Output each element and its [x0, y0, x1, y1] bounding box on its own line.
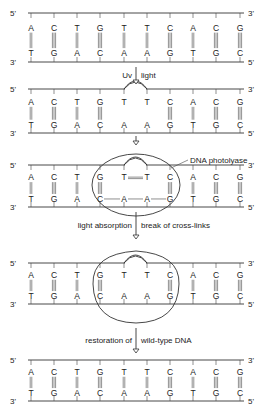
base-top: A	[28, 97, 34, 107]
base-bottom: C	[97, 48, 103, 58]
end-label: 3'	[10, 129, 16, 138]
base-bottom: A	[121, 48, 127, 58]
base-bottom: T	[190, 194, 195, 204]
base-top: T	[144, 270, 149, 280]
base-bottom: A	[121, 194, 127, 204]
base-bottom: A	[74, 194, 80, 204]
end-label: 3'	[10, 203, 16, 212]
base-top: G	[97, 23, 104, 33]
end-label: 5'	[248, 129, 254, 138]
step-label-right: light	[141, 71, 156, 80]
base-top: T	[121, 23, 126, 33]
base-top: T	[144, 23, 149, 33]
base-top: T	[144, 172, 149, 182]
base-bottom: G	[167, 120, 174, 130]
end-label: 5'	[248, 203, 254, 212]
base-top: A	[190, 270, 196, 280]
base-top: T	[74, 97, 79, 107]
base-bottom: A	[144, 291, 150, 301]
base-bottom: A	[74, 388, 80, 398]
base-bottom: T	[190, 120, 195, 130]
base-top: C	[51, 97, 57, 107]
base-top: T	[144, 97, 149, 107]
base-bottom: C	[237, 388, 243, 398]
step-label-right: wild-type DNA	[140, 336, 192, 345]
base-top: G	[97, 270, 104, 280]
base-top: T	[121, 97, 126, 107]
base-top: T	[121, 172, 126, 182]
base-bottom: A	[144, 48, 150, 58]
base-bottom: T	[28, 388, 33, 398]
base-top: T	[121, 367, 126, 377]
step-label-right: break of cross-links	[141, 221, 210, 230]
base-bottom: T	[190, 291, 195, 301]
base-bottom: C	[237, 120, 243, 130]
base-top: G	[237, 367, 244, 377]
base-top: A	[190, 172, 196, 182]
end-label: 3'	[248, 161, 254, 170]
base-bottom: C	[237, 194, 243, 204]
base-top: C	[51, 23, 57, 33]
base-top: T	[74, 23, 79, 33]
enzyme-label: DNA photolyase	[190, 156, 248, 165]
base-bottom: A	[144, 388, 150, 398]
dna-repair-diagram: 5'3'3'5'ATCGTAGCTATACGATCGGC5'3'3'5'ATCG…	[0, 0, 269, 417]
end-label: 5'	[248, 300, 254, 309]
base-top: G	[97, 172, 104, 182]
end-label: 5'	[10, 9, 16, 18]
base-bottom: C	[237, 291, 243, 301]
base-top: C	[51, 172, 57, 182]
end-label: 3'	[248, 356, 254, 365]
end-label: 3'	[248, 85, 254, 94]
end-label: 3'	[10, 300, 16, 309]
base-top: C	[213, 23, 219, 33]
base-top: G	[97, 97, 104, 107]
base-bottom: T	[28, 194, 33, 204]
end-label: 5'	[10, 356, 16, 365]
base-bottom: T	[28, 48, 33, 58]
step-label-left: Uv	[122, 71, 132, 80]
dna-panel-enzyme-bound: 5'3'3'5'ATCGTAGCTATACGATCGGC	[10, 157, 254, 212]
base-top: C	[167, 172, 173, 182]
end-label: 3'	[10, 397, 16, 406]
arrow-head-icon	[133, 235, 139, 239]
base-bottom: A	[74, 291, 80, 301]
base-top: C	[213, 270, 219, 280]
end-label: 5'	[248, 397, 254, 406]
base-bottom: G	[51, 120, 58, 130]
base-bottom: G	[213, 194, 220, 204]
base-bottom: G	[213, 120, 220, 130]
base-bottom: G	[51, 291, 58, 301]
base-top: A	[28, 172, 34, 182]
arrow-head-icon	[133, 349, 139, 353]
base-bottom: G	[213, 291, 220, 301]
base-top: A	[190, 367, 196, 377]
base-top: G	[237, 23, 244, 33]
base-top: G	[97, 367, 104, 377]
end-label: 5'	[10, 161, 16, 170]
base-bottom: T	[28, 120, 33, 130]
base-bottom: G	[51, 388, 58, 398]
base-top: G	[237, 270, 244, 280]
dna-panel-native: 5'3'3'5'ATCGTAGCTATACGATCGGC	[10, 9, 254, 67]
end-label: 5'	[10, 85, 16, 94]
end-label: 5'	[10, 259, 16, 268]
dna-panel-dimer: 5'3'3'5'ATCGTAGCTATACGATCGGC	[10, 81, 254, 138]
base-bottom: A	[74, 120, 80, 130]
base-bottom: G	[213, 48, 220, 58]
base-top: T	[144, 367, 149, 377]
base-bottom: A	[121, 291, 127, 301]
base-bottom: A	[74, 48, 80, 58]
dna-panel-restored: 5'3'3'5'ATCGTAGCTATACGATCGGC	[10, 356, 254, 406]
end-label: 3'	[248, 259, 254, 268]
dna-panel-cleaved: 5'3'3'5'ATCGTAGCTATACGATCGGC	[10, 255, 254, 309]
base-top: C	[213, 172, 219, 182]
base-top: C	[51, 367, 57, 377]
base-top: C	[213, 367, 219, 377]
base-bottom: A	[144, 120, 150, 130]
arrow-head-icon	[133, 141, 139, 145]
base-top: T	[74, 172, 79, 182]
base-top: A	[190, 97, 196, 107]
base-top: C	[213, 97, 219, 107]
base-top: G	[237, 97, 244, 107]
